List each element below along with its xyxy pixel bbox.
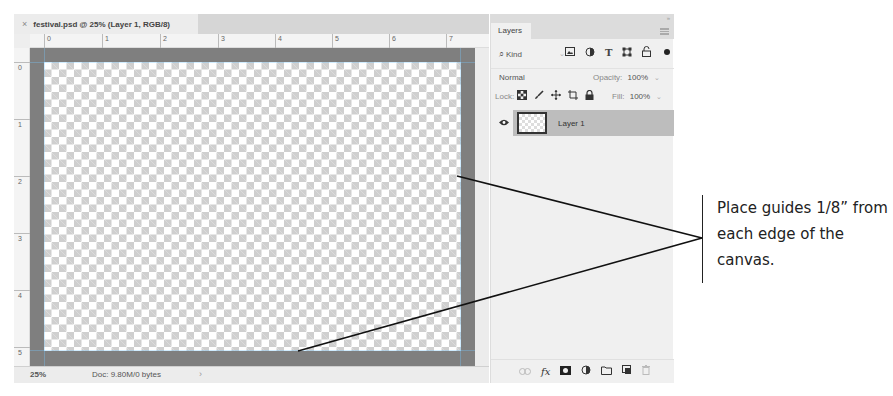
- filter-icons: T: [565, 46, 651, 59]
- panel-header: » Layers: [491, 14, 674, 39]
- lock-position-move-icon[interactable]: [551, 90, 561, 102]
- status-menu-arrow[interactable]: ›: [199, 369, 202, 379]
- ruler-tick: 0: [14, 62, 30, 73]
- ruler-tick: 7: [446, 34, 453, 48]
- ruler-tick: 2: [14, 176, 30, 187]
- fill-control: Fill: 100% ⌄: [612, 92, 662, 101]
- delete-trash-icon[interactable]: [642, 365, 650, 377]
- layers-panel: » Layers ⌕ Kind ⌄ T Normal: [490, 14, 673, 383]
- blend-mode-select[interactable]: Normal: [499, 73, 525, 82]
- ruler-tick: 3: [218, 34, 225, 48]
- zoom-level[interactable]: 25%: [30, 370, 46, 379]
- transparent-canvas[interactable]: [44, 62, 461, 351]
- lock-label: Lock:: [495, 92, 514, 101]
- lock-all-icon[interactable]: [585, 90, 594, 102]
- guide-right[interactable]: [460, 48, 461, 366]
- chevron-down-icon[interactable]: ⌄: [656, 93, 662, 100]
- vertical-ruler[interactable]: 0 1 2 3 4 5: [14, 48, 30, 366]
- document-window: × festival.psd @ 25% (Layer 1, RGB/8) 0 …: [14, 14, 489, 383]
- new-group-folder-icon[interactable]: [601, 366, 612, 377]
- fx-icon[interactable]: fx: [541, 366, 550, 377]
- ruler-tick: 4: [14, 290, 30, 301]
- guide-top[interactable]: [30, 62, 475, 63]
- document-tab[interactable]: × festival.psd @ 25% (Layer 1, RGB/8): [14, 14, 198, 34]
- ruler-tick: 0: [44, 34, 51, 48]
- panel-footer: fx: [491, 359, 674, 383]
- doc-size-info: Doc: 9.80M/0 bytes: [92, 370, 161, 379]
- search-icon: ⌕: [499, 49, 504, 60]
- adjustment-layer-icon[interactable]: [581, 365, 591, 377]
- image-filter-icon[interactable]: [565, 47, 575, 58]
- status-bar: 25% Doc: 9.80M/0 bytes ›: [14, 366, 489, 383]
- callout-text: Place guides 1/8” from each edge of the …: [717, 195, 893, 273]
- horizontal-ruler[interactable]: 0 1 2 3 4 5 6 7: [30, 34, 489, 48]
- layer-name[interactable]: Layer 1: [558, 119, 585, 128]
- lock-pixels-brush-icon[interactable]: [534, 90, 544, 102]
- shape-filter-icon[interactable]: [622, 47, 632, 59]
- lock-icons: [517, 90, 594, 102]
- opacity-label: Opacity:: [593, 73, 622, 82]
- ruler-tick: 5: [14, 347, 30, 358]
- chevron-down-icon[interactable]: ⌄: [654, 74, 660, 81]
- ruler-tick: 4: [275, 34, 282, 48]
- panel-menu-icon[interactable]: [660, 28, 669, 35]
- guide-bottom[interactable]: [30, 350, 475, 351]
- filter-kind-select[interactable]: ⌕ Kind ⌄: [499, 47, 549, 61]
- ruler-tick: 3: [14, 233, 30, 244]
- document-tab-bar: × festival.psd @ 25% (Layer 1, RGB/8): [14, 14, 489, 34]
- footer-icons: fx: [519, 365, 650, 377]
- ruler-tick: 1: [14, 119, 30, 130]
- ruler-tick: 5: [332, 34, 339, 48]
- lock-artboard-icon[interactable]: [568, 90, 578, 102]
- callout-bracket: [702, 195, 703, 283]
- vertical-scrollbar[interactable]: [475, 48, 489, 366]
- tab-layers[interactable]: Layers: [491, 23, 531, 39]
- pasteboard[interactable]: [30, 48, 475, 366]
- ruler-origin[interactable]: [14, 34, 30, 48]
- close-icon[interactable]: ×: [22, 19, 27, 29]
- collapse-panel-icon[interactable]: »: [667, 15, 670, 21]
- opacity-input[interactable]: 100%: [628, 73, 648, 82]
- fill-input[interactable]: 100%: [630, 92, 650, 101]
- adjustment-filter-icon[interactable]: [585, 47, 595, 59]
- layer-filter-row: ⌕ Kind ⌄ T: [491, 44, 674, 64]
- lock-transparency-icon[interactable]: [517, 90, 527, 102]
- fill-label: Fill:: [612, 92, 624, 101]
- blend-row: Normal Opacity: 100% ⌄: [491, 68, 674, 84]
- layer-row[interactable]: Layer 1: [491, 110, 674, 136]
- layer-thumbnail[interactable]: [517, 112, 547, 134]
- smart-object-filter-icon[interactable]: [642, 46, 651, 59]
- link-layers-icon[interactable]: [519, 366, 531, 377]
- lock-row: Lock: Fill: 100% ⌄: [491, 88, 674, 106]
- ruler-tick: 2: [160, 34, 167, 48]
- ruler-tick: 6: [389, 34, 396, 48]
- ruler-tick: 1: [102, 34, 109, 48]
- new-layer-icon[interactable]: [622, 365, 632, 377]
- opacity-control: Opacity: 100% ⌄: [593, 73, 660, 82]
- eye-visibility-icon[interactable]: [499, 118, 509, 128]
- type-filter-icon[interactable]: T: [605, 47, 612, 58]
- add-mask-icon[interactable]: [560, 366, 571, 377]
- guide-left[interactable]: [44, 48, 45, 366]
- document-tab-title: festival.psd @ 25% (Layer 1, RGB/8): [33, 20, 170, 29]
- filter-kind-label: Kind: [506, 50, 522, 59]
- filter-toggle[interactable]: [664, 49, 670, 55]
